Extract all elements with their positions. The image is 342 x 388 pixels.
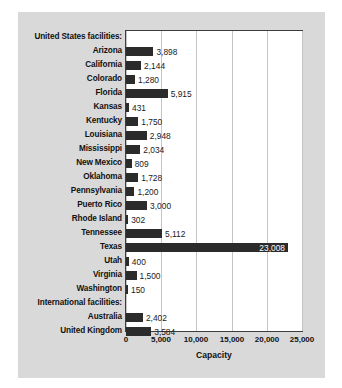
bar-value-label: 400 (132, 256, 146, 268)
bar (126, 257, 129, 266)
section-header-label: United States facilities: (18, 30, 122, 44)
category-label: Arizona (18, 44, 122, 58)
bar-value-label: 3,000 (150, 200, 171, 212)
category-label: Florida (18, 86, 122, 100)
bar (126, 215, 128, 224)
bar-row: 23,008 (126, 241, 302, 255)
bar-row: 302 (126, 213, 302, 227)
bar-value-label: 1,750 (141, 116, 162, 128)
x-axis-tick-labels: 05,00010,00015,00020,00025,000 (125, 334, 303, 346)
category-label: Kansas (18, 100, 122, 114)
bar-value-label: 3,898 (156, 46, 177, 58)
category-label: Virginia (18, 268, 122, 282)
bar (126, 173, 138, 182)
bar-row: 1,280 (126, 73, 302, 87)
bar-row: 1,750 (126, 115, 302, 129)
category-label: Utah (18, 254, 122, 268)
chart-figure-panel: United States facilities:ArizonaCaliforn… (18, 12, 325, 378)
bar-row: 3,898 (126, 45, 302, 59)
bar-row: 809 (126, 157, 302, 171)
bar (126, 201, 147, 210)
bar-value-label: 1,280 (138, 74, 159, 86)
bar (126, 103, 129, 112)
gridline-25000 (302, 31, 303, 331)
bar-value-label: 2,144 (144, 60, 165, 72)
bar-row: 2,034 (126, 143, 302, 157)
bar-value-label: 431 (132, 102, 146, 114)
x-tick-label: 15,000 (220, 334, 244, 345)
bar (126, 229, 162, 238)
bar (126, 285, 128, 294)
bar (126, 313, 143, 322)
bar (126, 145, 140, 154)
bar-row: 5,915 (126, 87, 302, 101)
x-tick-label: 25,000 (290, 334, 314, 345)
bar (126, 131, 147, 140)
bar (126, 271, 137, 280)
bar-value-label: 1,500 (140, 270, 161, 282)
bar-row: 5,112 (126, 227, 302, 241)
bar-value-label: 2,034 (143, 144, 164, 156)
bar-value-label: 2,402 (146, 312, 167, 324)
bar (126, 61, 141, 70)
category-label: New Mexico (18, 156, 122, 170)
bar-row: 1,200 (126, 185, 302, 199)
category-label: Colorado (18, 72, 122, 86)
bars-layer: 3,8982,1441,2805,9154311,7502,9482,03480… (126, 31, 302, 331)
bar-value-label: 1,200 (137, 186, 158, 198)
bar (126, 89, 168, 98)
category-label: Tennessee (18, 226, 122, 240)
category-label: United Kingdom (18, 324, 122, 338)
plot-area: 3,8982,1441,2805,9154311,7502,9482,03480… (125, 30, 303, 332)
bar-value-label: 5,112 (165, 228, 185, 240)
x-tick-label: 0 (124, 334, 128, 345)
bar-value-label: 23,008 (259, 242, 285, 254)
x-axis-title: Capacity (125, 350, 303, 360)
bar-row: 400 (126, 255, 302, 269)
bar-row: 1,728 (126, 171, 302, 185)
bar-row: 2,402 (126, 311, 302, 325)
category-label: Louisiana (18, 128, 122, 142)
category-label: Australia (18, 310, 122, 324)
category-label: Washington (18, 282, 122, 296)
bar (126, 117, 138, 126)
bar (126, 187, 134, 196)
category-label: Pennsylvania (18, 184, 122, 198)
category-label: Mississippi (18, 142, 122, 156)
bar-row: 1,500 (126, 269, 302, 283)
section-header-label: International facilities: (18, 296, 122, 310)
category-label: Kentucky (18, 114, 122, 128)
bar (126, 159, 132, 168)
bar-row: 3,000 (126, 199, 302, 213)
category-label: Puerto Rico (18, 198, 122, 212)
bar-row: 431 (126, 101, 302, 115)
category-label: California (18, 58, 122, 72)
category-axis-labels: United States facilities:ArizonaCaliforn… (18, 30, 122, 332)
bar (126, 47, 153, 56)
x-tick-label: 20,000 (255, 334, 279, 345)
bar-row: 2,948 (126, 129, 302, 143)
bar-value-label: 2,948 (150, 130, 171, 142)
bar (126, 75, 135, 84)
category-label: Rhode Island (18, 212, 122, 226)
x-tick-label: 10,000 (184, 334, 208, 345)
category-label: Texas (18, 240, 122, 254)
bar-value-label: 1,728 (141, 172, 162, 184)
bar-row: 2,144 (126, 59, 302, 73)
bar-value-label: 302 (131, 214, 145, 226)
bar-value-label: 5,915 (171, 88, 192, 100)
category-label: Oklahoma (18, 170, 122, 184)
bar-value-label: 150 (131, 284, 145, 296)
x-tick-label: 5,000 (151, 334, 171, 345)
bar-value-label: 809 (135, 158, 149, 170)
bar-row: 150 (126, 283, 302, 297)
